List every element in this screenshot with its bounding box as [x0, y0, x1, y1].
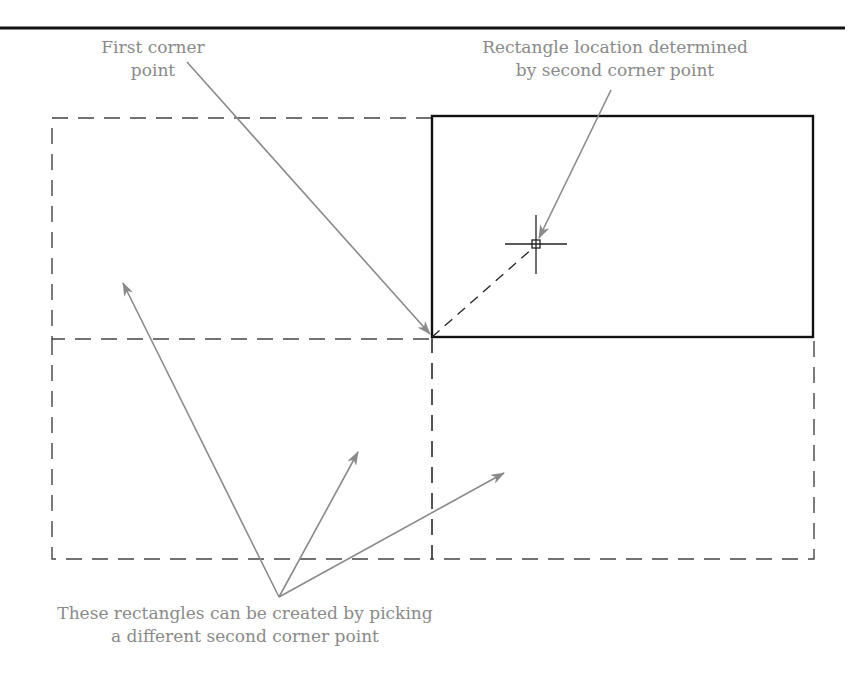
diagram-graphics: [0, 0, 864, 679]
label-rectangle-location: Rectangle location determined by second …: [445, 36, 785, 82]
label-alternatives-line2: a different second corner point: [40, 625, 450, 648]
diagram-canvas: First corner point Rectangle location de…: [0, 0, 864, 679]
label-alternatives-line1: These rectangles can be created by picki…: [40, 602, 450, 625]
leader-first-corner: [187, 62, 430, 334]
label-alternative-rectangles: These rectangles can be created by picki…: [40, 602, 450, 648]
leader-second-corner: [539, 90, 611, 238]
label-rectangle-location-line2: by second corner point: [445, 59, 785, 82]
label-first-corner-point: First corner point: [88, 36, 218, 82]
leader-lines: [123, 62, 611, 597]
label-first-corner-line2: point: [88, 59, 218, 82]
rubber-band-line: [432, 248, 533, 337]
dashed-rect-upper-left: [52, 118, 432, 339]
leader-alt-upper-left: [123, 283, 279, 597]
dashed-rect-lower-right: [432, 337, 814, 559]
solid-rectangle: [432, 116, 813, 337]
label-rectangle-location-line1: Rectangle location determined: [445, 36, 785, 59]
dashed-rect-lower-left: [52, 339, 432, 559]
label-first-corner-line1: First corner: [88, 36, 218, 59]
